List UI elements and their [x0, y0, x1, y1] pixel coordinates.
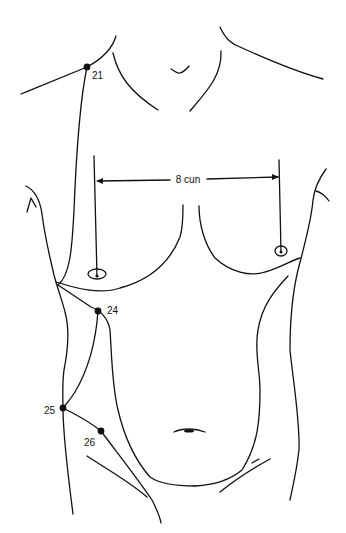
left-inguinal-line: [87, 456, 147, 497]
torso-figure: 8 cun 21 24 25 26: [0, 0, 346, 533]
navel-icon: [184, 429, 194, 432]
arrowhead-left-icon: [96, 178, 103, 184]
meridian-25-26: [63, 408, 161, 523]
left-axilla-mark: [27, 198, 36, 212]
right-breast-contour: [199, 206, 300, 274]
acupoint-25-dot: [60, 405, 67, 412]
acupoint-24-dot: [95, 308, 102, 315]
left-shoulder-line: [21, 36, 116, 94]
right-nipple-dot: [280, 251, 283, 254]
diagram-canvas: 8 cun 21 24 25 26: [0, 0, 346, 533]
meridian-24-25: [63, 311, 98, 408]
right-neck-line: [190, 51, 221, 111]
left-neck-line: [113, 53, 158, 110]
acupoint-21-label: 21: [92, 70, 104, 81]
left-nipple-dot: [95, 274, 98, 277]
acupoint-24-label: 24: [107, 305, 119, 316]
right-shoulder-line: [220, 27, 323, 79]
dimension-arrow-left: [98, 180, 170, 181]
right-axilla-mark: [316, 191, 329, 201]
meridian-upper-line: [58, 67, 87, 285]
right-vertical-guide: [279, 160, 281, 252]
dimension-label: 8 cun: [176, 174, 200, 185]
left-breast-contour: [56, 205, 183, 291]
acupoint-25-label: 25: [44, 405, 56, 416]
right-rib-line: [195, 276, 288, 486]
suprasternal-notch: [171, 66, 189, 73]
left-arm-fold: [26, 186, 73, 514]
acupoint-26-dot: [98, 428, 105, 435]
right-arm-line: [290, 169, 326, 500]
right-inguinal-mark: [252, 459, 259, 463]
arrowhead-right-icon: [272, 174, 279, 180]
acupoint-21-dot: [84, 64, 91, 71]
dimension-arrow-right: [207, 177, 278, 179]
acupoint-26-label: 26: [84, 437, 96, 448]
left-vertical-guide: [94, 156, 97, 276]
